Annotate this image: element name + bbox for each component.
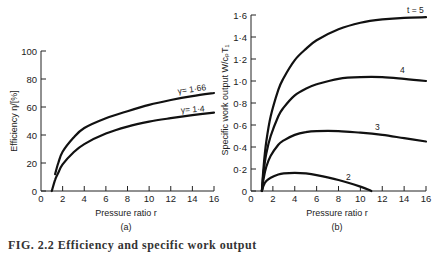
- x-tick-label: 8: [125, 193, 130, 204]
- y-tick-label: 80: [26, 74, 37, 85]
- panel-b-x-ticks: 0246810121416: [248, 186, 431, 204]
- y-tick-label: 60: [26, 102, 37, 113]
- panel-a-x-ticks: 0246810121416: [38, 186, 219, 204]
- panel-a-label: (a): [121, 222, 132, 232]
- series-label-t5: t = 5: [407, 5, 424, 15]
- panel-b-y-ticks: 00·20·40·60·81·01·21·41·6: [233, 10, 256, 197]
- x-tick-label: 4: [292, 193, 297, 204]
- x-tick-label: 10: [144, 193, 155, 204]
- x-tick-label: 12: [377, 193, 388, 204]
- x-tick-label: 16: [421, 193, 432, 204]
- figure-caption: FIG. 2.2 Efficiency and specific work ou…: [8, 238, 257, 253]
- panel-a-y-ticks: 020406080100: [21, 46, 46, 197]
- x-tick-label: 2: [270, 193, 275, 204]
- x-tick-label: 0: [38, 193, 43, 204]
- panel-a-efficiency-chart: 020406080100 0246810121416 γ= 1·66 γ= 1·…: [9, 46, 219, 233]
- series-label-t4: 4: [400, 65, 405, 75]
- panel-b-y-axis-label: Specific work output W/cₚT₁: [220, 44, 230, 155]
- x-tick-label: 8: [336, 193, 341, 204]
- y-tick-label: 40: [26, 130, 37, 141]
- series-curve: [52, 113, 214, 191]
- x-tick-label: 6: [103, 193, 108, 204]
- y-tick-label: 1·6: [233, 10, 247, 21]
- y-tick-label: 20: [26, 158, 37, 169]
- y-tick-label: 0·6: [233, 120, 247, 131]
- series-label-gamma-14: γ= 1·4: [180, 103, 205, 115]
- x-tick-label: 14: [399, 193, 410, 204]
- x-tick-label: 10: [355, 193, 366, 204]
- panel-b-x-axis-label: Pressure ratio r: [306, 208, 368, 218]
- panel-b-axes: [251, 15, 426, 191]
- y-tick-label: 0·8: [233, 98, 247, 109]
- x-tick-label: 12: [165, 193, 176, 204]
- y-tick-label: 0: [32, 186, 37, 197]
- panel-b-label: (b): [332, 222, 343, 232]
- panel-a-x-axis-label: Pressure ratio r: [95, 208, 157, 218]
- x-tick-label: 16: [209, 193, 220, 204]
- y-tick-label: 0·2: [233, 164, 247, 175]
- y-tick-label: 1·4: [233, 32, 247, 43]
- series-label-t3: 3: [375, 122, 380, 132]
- panel-a-y-axis-label: Efficiency η/[%]: [9, 90, 19, 151]
- x-tick-label: 0: [248, 193, 253, 204]
- x-tick-label: 6: [314, 193, 319, 204]
- series-label-t2: 2: [346, 172, 351, 182]
- panel-b-curves: [262, 17, 426, 191]
- x-tick-label: 2: [60, 193, 65, 204]
- panel-a-axes: [41, 51, 214, 191]
- y-tick-label: 0: [242, 186, 247, 197]
- x-tick-label: 4: [82, 193, 87, 204]
- y-tick-label: 1·2: [233, 54, 247, 65]
- x-tick-label: 14: [187, 193, 198, 204]
- y-tick-label: 1·0: [233, 76, 247, 87]
- y-tick-label: 100: [21, 46, 37, 57]
- panel-b-work-output-chart: 00·20·40·60·81·01·21·41·6 0246810121416 …: [220, 5, 431, 232]
- y-tick-label: 0·4: [233, 142, 247, 153]
